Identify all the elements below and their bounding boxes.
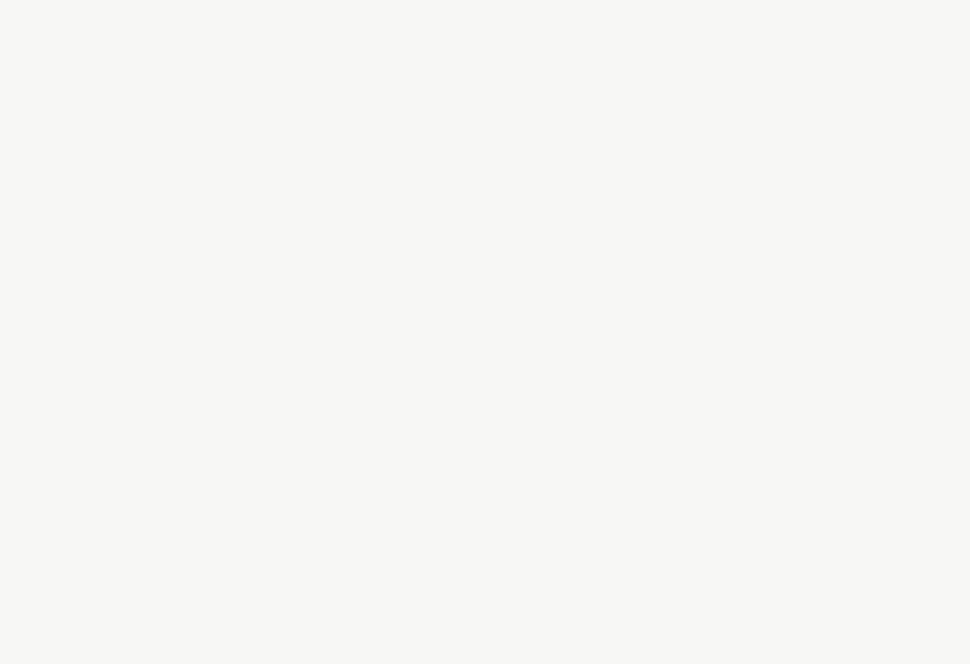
cross-diagram-svg — [0, 0, 970, 664]
